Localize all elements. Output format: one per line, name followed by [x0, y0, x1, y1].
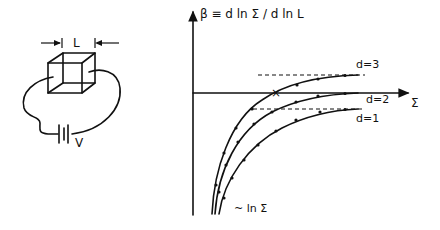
voltage-label: V — [75, 136, 84, 150]
cube — [48, 53, 95, 93]
y-axis-label: β ≡ d ln Σ / d ln L — [200, 7, 304, 21]
beta-function-plot: β ≡ d ln Σ / d ln L Σ × d=3 d=2 d=1 ~ ln… — [193, 7, 419, 215]
curve-d3 — [212, 75, 358, 214]
wire-right — [72, 70, 120, 134]
length-label: L — [73, 36, 80, 50]
series-label-d1: d=1 — [356, 112, 379, 125]
series-label-d3: d=3 — [356, 58, 379, 71]
scaling-diagram: L V β ≡ d ln Σ / d ln L Σ — [0, 0, 440, 230]
series-label-d2: d=2 — [366, 93, 389, 106]
battery-icon — [59, 125, 68, 143]
fixed-point-marker: × — [271, 86, 281, 100]
wire-left — [23, 77, 58, 134]
asymptote-annotation: ~ ln Σ — [234, 202, 267, 215]
curve-d1 — [219, 109, 358, 214]
x-axis-label: Σ — [411, 96, 419, 110]
circuit-schematic: L V — [23, 36, 120, 150]
